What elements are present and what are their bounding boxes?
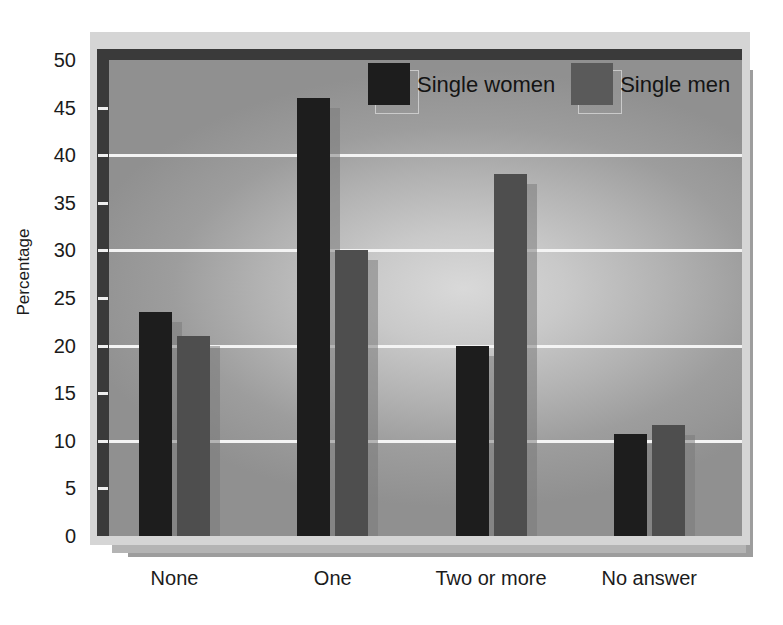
bar[interactable] (139, 312, 172, 536)
y-tick-35 (98, 202, 108, 205)
legend-swatch-dark (368, 63, 412, 107)
y-tick-label-25: 25 (36, 288, 76, 308)
y-tick-15 (98, 392, 108, 395)
legend-swatch-fill (368, 63, 410, 105)
y-tick-30 (98, 249, 108, 252)
bar[interactable] (335, 250, 368, 536)
bar[interactable] (614, 434, 647, 536)
y-tick-20 (98, 345, 108, 348)
gridline-40 (109, 154, 742, 157)
y-tick-10 (98, 440, 108, 443)
legend-item-single-women[interactable]: Single women (368, 63, 555, 107)
bar[interactable] (494, 174, 527, 536)
plot-area (109, 60, 742, 536)
y-tick-label-15: 15 (36, 383, 76, 403)
gridline-30 (109, 249, 742, 252)
bar[interactable] (652, 425, 685, 536)
bar-chart: Percentage 50454035302520151050 Single w… (0, 0, 783, 625)
chart-legend: Single women Single men (368, 62, 730, 108)
bar[interactable] (177, 336, 210, 536)
bar[interactable] (456, 346, 489, 536)
y-tick-label-5: 5 (36, 478, 76, 498)
bar-fill (177, 336, 210, 536)
y-tick-45 (98, 107, 108, 110)
y-tick-5 (98, 487, 108, 490)
y-tick-label-50: 50 (36, 50, 76, 70)
bar[interactable] (297, 98, 330, 536)
y-tick-label-10: 10 (36, 431, 76, 451)
legend-label-single-women: Single women (417, 72, 555, 98)
y-tick-label-30: 30 (36, 240, 76, 260)
bar-fill (456, 346, 489, 536)
x-tick-label-no-answer: No answer (554, 566, 744, 590)
bar-fill (494, 174, 527, 536)
y-axis-title: Percentage (14, 182, 34, 362)
y-tick-label-40: 40 (36, 145, 76, 165)
y-tick-label-45: 45 (36, 98, 76, 118)
top-border-bar (97, 49, 742, 60)
y-tick-label-0: 0 (36, 526, 76, 546)
plot-panel (97, 49, 742, 536)
bar-fill (139, 312, 172, 536)
legend-swatch-fill (571, 63, 613, 105)
y-tick-label-20: 20 (36, 336, 76, 356)
legend-label-single-men: Single men (620, 72, 730, 98)
y-axis-bar (97, 49, 109, 536)
legend-swatch-gray (571, 63, 615, 107)
bar-fill (297, 98, 330, 536)
y-tick-label-35: 35 (36, 193, 76, 213)
y-tick-40 (98, 154, 108, 157)
y-tick-25 (98, 297, 108, 300)
legend-item-single-men[interactable]: Single men (571, 63, 730, 107)
bar-fill (614, 434, 647, 536)
bar-fill (335, 250, 368, 536)
bar-fill (652, 425, 685, 536)
